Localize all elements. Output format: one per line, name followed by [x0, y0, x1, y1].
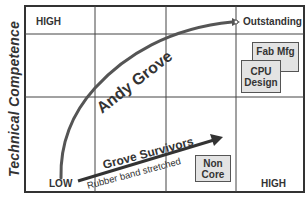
box-cpu-design-line1: CPU [242, 66, 280, 77]
box-cpu-design: CPU Design [241, 60, 281, 93]
box-non-core-line1: Non [196, 158, 230, 169]
box-cpu-design-line2: Design [242, 77, 280, 88]
competence-matrix: Andy Grove Grove Survivors Rubber band s… [0, 0, 308, 197]
label-outstanding: Outstanding [243, 16, 302, 27]
box-fab-mfg-text: Fab Mfg [256, 46, 294, 57]
y-axis-label: Technical Competence [6, 14, 24, 184]
box-non-core-line2: Core [196, 169, 230, 180]
box-non-core: Non Core [195, 155, 231, 182]
label-high-top-left: HIGH [36, 16, 61, 27]
label-low: LOW [49, 178, 72, 189]
curve-end-marker-icon [234, 20, 238, 24]
andy-grove-label: Andy Grove [93, 47, 175, 116]
label-high-bottom-right: HIGH [261, 178, 286, 189]
